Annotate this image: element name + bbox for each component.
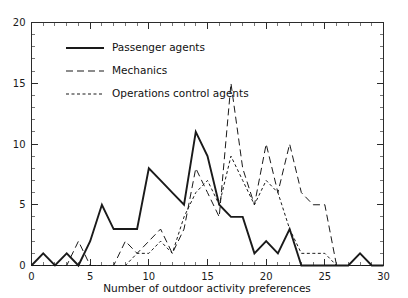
legend-label-operations-control-agents: Operations control agents xyxy=(112,87,249,99)
x-tick-label: 30 xyxy=(377,271,390,282)
legend-label-mechanics: Mechanics xyxy=(112,64,167,76)
line-chart: 051015202530 05101520 Number of outdoor … xyxy=(0,0,408,298)
x-tick-label: 20 xyxy=(260,271,273,282)
x-tick-label: 25 xyxy=(318,271,331,282)
x-tick-label: 5 xyxy=(87,271,93,282)
y-tick-label: 5 xyxy=(19,199,25,210)
y-tick-label: 0 xyxy=(19,260,25,271)
x-tick-label: 0 xyxy=(28,271,34,282)
y-tick-label: 10 xyxy=(13,139,26,150)
x-tick-label: 15 xyxy=(201,271,214,282)
x-axis-title: Number of outdoor activity preferences xyxy=(103,282,311,294)
legend-label-passenger-agents: Passenger agents xyxy=(112,41,205,53)
chart-canvas: 051015202530 05101520 Number of outdoor … xyxy=(0,0,408,298)
y-tick-label: 15 xyxy=(13,78,26,89)
y-tick-label: 20 xyxy=(13,17,26,28)
x-tick-label: 10 xyxy=(142,271,155,282)
